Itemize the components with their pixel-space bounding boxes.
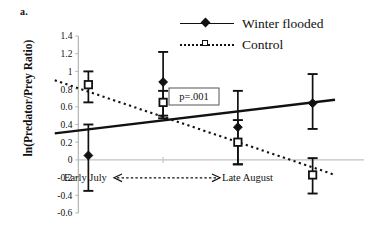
plot-area: 1.41.210.80.60.40.20-0.2-0.4-0.6 p=.001E… [0,0,374,234]
time-label-end: Late August [222,172,273,183]
data-point-control [83,71,93,102]
y-tick-label: -0.4 [57,191,72,201]
chart-annotations: p=.001Early JulyLate August [64,88,273,183]
y-tick-label: 1.4 [61,31,73,41]
data-point-control [308,158,318,193]
y-tick-label: 1.2 [61,49,73,59]
time-range-arrow [114,174,220,182]
y-tick-label: 1 [68,67,73,77]
pvalue-label: p=.001 [179,91,209,102]
data-point-control [158,91,168,118]
y-axis-ticks: 1.41.210.80.60.40.20-0.2-0.4-0.6 [57,31,78,218]
y-tick-label: 0.6 [61,102,73,112]
y-tick-label: 0.2 [61,138,73,148]
chart-figure: a. Winter flooded Control ln(Predator/Pr… [0,0,374,234]
data-points [83,52,317,194]
y-tick-label: 0.4 [61,120,73,130]
time-label-start: Early July [64,172,108,183]
y-tick-label: 0 [68,155,73,165]
y-tick-label: -0.6 [57,208,72,218]
